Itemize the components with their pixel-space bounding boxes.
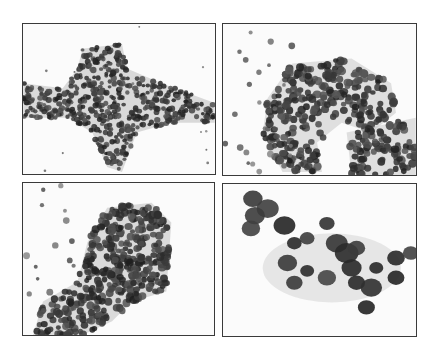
micrograph-panel-bottom-right — [222, 183, 417, 337]
cell-cluster-image — [223, 24, 416, 175]
large-nuclei-image — [223, 184, 416, 336]
micrograph-panel-bottom-left — [22, 182, 215, 336]
micrograph-panel-top-left — [22, 23, 216, 175]
cell-aggregate-image — [23, 183, 214, 335]
cell-sheet-image — [23, 24, 215, 174]
micrograph-panel-top-right — [222, 23, 417, 176]
